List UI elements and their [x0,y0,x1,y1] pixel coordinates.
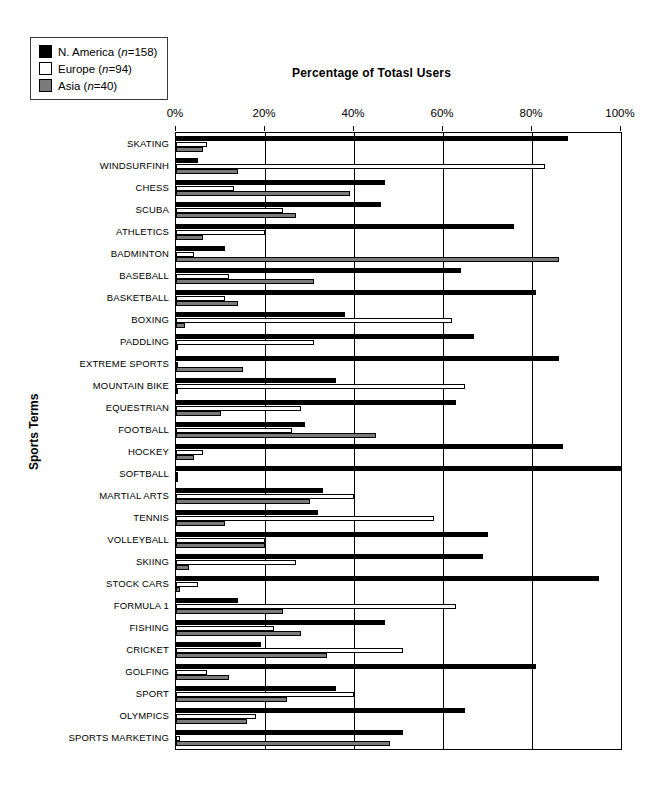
bar-n-america [176,334,474,339]
category-label: ATHLETICS [116,226,176,237]
category-label: BADMINTON [111,248,176,259]
category-label: SOFTBALL [119,468,176,479]
bar-europe [176,142,207,147]
category-label: MOUNTAIN BIKE [93,380,176,391]
bar-group: TENNIS [176,507,621,529]
category-label: WINDSURFINH [100,160,176,171]
category-label: PADDLING [120,336,176,347]
bar-group: FORMULA 1 [176,595,621,617]
bar-n-america [176,576,599,581]
bar-asia [176,631,301,636]
bar-asia [176,719,247,724]
bar-europe [176,692,354,697]
bar-n-america [176,708,465,713]
bar-group: FOOTBALL [176,419,621,441]
bar-europe [176,252,194,257]
category-label: FISHING [129,622,176,633]
category-label: BOXING [131,314,176,325]
category-label: SPORT [136,688,176,699]
bar-europe [176,340,314,345]
bar-group: CHESS [176,177,621,199]
bar-asia [176,609,283,614]
bar-group: OLYMPICS [176,705,621,727]
bar-asia [176,499,310,504]
bar-europe [176,428,292,433]
category-label: HOCKEY [128,446,176,457]
bar-n-america [176,224,514,229]
y-axis-title: Sports Terms [27,394,41,470]
bar-europe [176,736,180,741]
chart-title: Percentage of Totasl Users [292,66,451,80]
bar-europe [176,582,198,587]
x-tick-label-80: 80% [519,107,542,119]
bar-n-america [176,730,403,735]
bar-asia [176,675,229,680]
bar-asia [176,433,376,438]
plot-area: SKATINGWINDSURFINHCHESSSCUBAATHLETICSBAD… [175,132,622,750]
category-label: SKATING [127,138,176,149]
category-label: FORMULA 1 [114,600,176,611]
bar-n-america [176,532,488,537]
bar-europe [176,406,301,411]
bar-europe [176,274,229,279]
bar-asia [176,653,327,658]
x-tick-mark-20 [264,126,265,131]
bar-group: CRICKET [176,639,621,661]
bar-europe [176,560,296,565]
category-label: EXTREME SPORTS [79,358,176,369]
bar-n-america [176,510,318,515]
x-tick-label-20: 20% [252,107,275,119]
bar-europe [176,318,452,323]
bar-europe [176,604,456,609]
bar-n-america [176,466,621,471]
category-label: STOCK CARS [106,578,176,589]
bar-n-america [176,488,323,493]
category-label: VOLLEYBALL [107,534,176,545]
category-label: GOLFING [125,666,176,677]
category-label: SPORTS MARKETING [69,732,176,743]
bar-europe [176,186,234,191]
bar-europe [176,516,434,521]
bar-group: SKIING [176,551,621,573]
bar-europe [176,538,265,543]
bar-group: VOLLEYBALL [176,529,621,551]
x-tick-label-40: 40% [341,107,364,119]
x-tick-label-60: 60% [430,107,453,119]
bar-group: FISHING [176,617,621,639]
x-tick-mark-0 [175,126,176,131]
bar-asia [176,213,296,218]
bar-group: EXTREME SPORTS [176,353,621,375]
bar-europe [176,472,178,477]
legend-item-n-america: N. America (n=158) [39,43,157,60]
bar-asia [176,697,287,702]
bar-asia [176,323,185,328]
bar-group: SPORT [176,683,621,705]
bar-n-america [176,642,261,647]
bar-europe [176,362,178,367]
chart-legend: N. America (n=158) Europe (n=94) Asia (n… [30,37,168,100]
bar-group: SKATING [176,133,621,155]
bar-group: BADMINTON [176,243,621,265]
bar-europe [176,230,265,235]
category-label: SCUBA [136,204,176,215]
legend-label-europe: Europe (n=94) [58,63,132,75]
bar-asia [176,367,243,372]
x-tick-label-100: 100% [605,107,634,119]
category-label: EQUESTRIAN [106,402,176,413]
x-tick-mark-40 [353,126,354,131]
bar-group: MARTIAL ARTS [176,485,621,507]
bar-group: ATHLETICS [176,221,621,243]
category-label: BASEBALL [119,270,176,281]
category-label: TENNIS [133,512,176,523]
bar-n-america [176,246,225,251]
bar-europe [176,296,225,301]
bar-n-america [176,290,536,295]
bar-europe [176,494,354,499]
bar-n-america [176,686,336,691]
x-tick-mark-80 [531,126,532,131]
bar-n-america [176,620,385,625]
bar-group: SPORTS MARKETING [176,727,621,749]
legend-item-europe: Europe (n=94) [39,60,157,77]
chart-page: N. America (n=158) Europe (n=94) Asia (n… [0,0,664,788]
bar-asia [176,301,238,306]
